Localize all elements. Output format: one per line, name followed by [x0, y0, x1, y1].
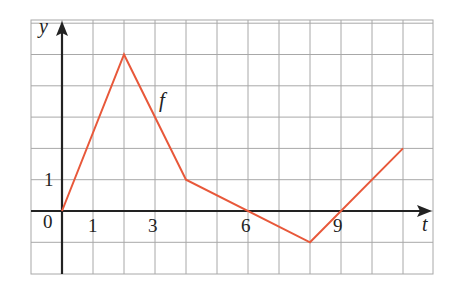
x-tick-6: 6 — [241, 215, 251, 236]
y-tick-1: 1 — [44, 169, 54, 190]
x-axis-label: t — [422, 213, 428, 235]
y-axis-label: y — [37, 15, 48, 38]
x-tick-3: 3 — [148, 215, 158, 236]
origin-label: 0 — [43, 211, 53, 232]
x-tick-1: 1 — [88, 215, 98, 236]
x-tick-9: 9 — [333, 215, 343, 236]
function-label: f — [159, 88, 168, 112]
chart-svg: y t f 0 1 3 6 9 1 — [0, 0, 452, 290]
chart-container: y t f 0 1 3 6 9 1 — [0, 0, 452, 290]
